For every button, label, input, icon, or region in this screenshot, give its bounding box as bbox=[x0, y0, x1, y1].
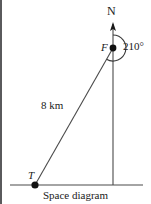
point-t-marker bbox=[31, 181, 38, 188]
figure-caption: Space diagram bbox=[0, 189, 151, 201]
point-f-label: F bbox=[101, 42, 108, 53]
north-label: N bbox=[107, 5, 116, 17]
line-t-to-f bbox=[35, 48, 113, 185]
bearing-angle-label: 210° bbox=[123, 41, 144, 52]
point-t-label: T bbox=[28, 170, 34, 181]
diagram-drawing bbox=[0, 0, 151, 204]
point-f-marker bbox=[110, 45, 117, 52]
distance-label: 8 km bbox=[41, 100, 63, 111]
space-diagram-figure: N F 210° 8 km T Space diagram bbox=[0, 0, 151, 204]
